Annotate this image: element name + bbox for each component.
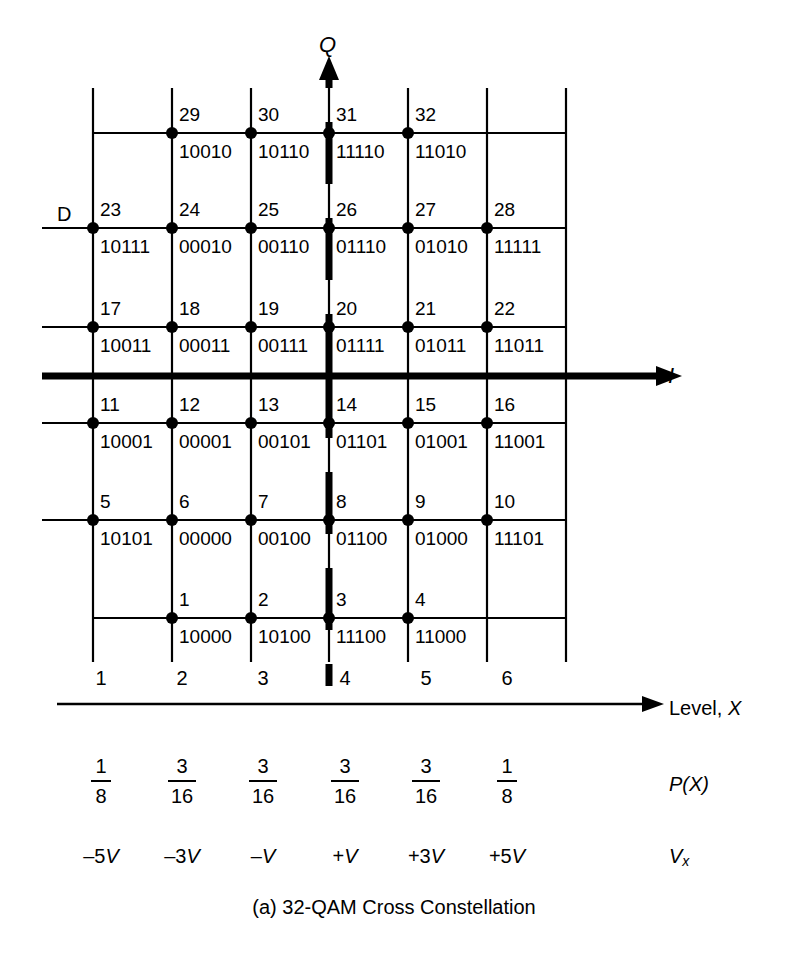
point-index-label: 4 [415,590,426,609]
point-index-label: 30 [258,105,279,124]
level-axis-label-variable: X [728,697,741,719]
fraction-bar [91,780,111,782]
i-axis-label: I [668,365,674,387]
voltage-sign: – [83,845,94,867]
voltage-sign: + [408,845,420,867]
voltage-value: –3V [148,845,216,868]
fraction-bar [497,780,517,782]
point-index-label: 12 [179,395,200,414]
fraction-numerator: 3 [402,755,450,779]
point-index-label: 22 [494,299,515,318]
point-code-label: 11100 [336,627,386,646]
fraction-numerator: 3 [321,755,369,779]
point-index-label: 13 [258,395,279,414]
point-code-label: 01010 [415,237,468,256]
voltage-sign: + [332,845,344,867]
point-code-label: 11110 [336,142,385,161]
point-code-label: 10101 [100,529,153,548]
point-code-label: 00100 [258,529,311,548]
fraction-denominator: 8 [483,784,531,808]
point-code-label: 11001 [494,432,545,451]
voltage-magnitude: 3 [420,845,431,867]
d-label: D [57,204,71,224]
figure-caption: (a) 32-QAM Cross Constellation [0,896,788,919]
probability-fraction: 18 [483,755,531,808]
voltage-label-subscript: x [682,853,689,869]
qam-constellation-figure: 2910010301011031111103211010231011124000… [0,0,788,964]
point-code-label: 01101 [336,432,387,451]
point-code-label: 01001 [415,432,468,451]
level-axis-label-text: Level, [669,697,728,719]
fraction-bar [249,780,277,782]
point-index-label: 19 [258,299,279,318]
point-code-label: 00000 [179,529,232,548]
voltage-unit: V [431,845,444,867]
point-index-label: 31 [336,105,357,124]
fraction-bar [331,780,359,782]
fraction-numerator: 1 [77,755,125,779]
point-code-label: 10010 [179,142,232,161]
point-index-label: 7 [258,492,269,511]
point-code-label: 10110 [258,142,309,161]
point-code-label: 00001 [179,432,232,451]
fraction-denominator: 8 [77,784,125,808]
figure-text-layer: 2910010301011031111103211010231011124000… [0,0,788,964]
fraction-denominator: 16 [158,784,206,808]
voltage-magnitude: 5 [94,845,105,867]
point-index-label: 23 [100,200,121,219]
point-index-label: 27 [415,200,436,219]
level-number: 1 [81,668,121,688]
point-code-label: 10100 [258,627,311,646]
voltage-value: +V [311,845,379,868]
point-code-label: 01000 [415,529,468,548]
fraction-bar [412,780,440,782]
point-code-label: 00111 [258,336,308,355]
point-index-label: 14 [336,395,357,414]
point-code-label: 01100 [336,529,387,548]
point-index-label: 28 [494,200,515,219]
fraction-bar [168,780,196,782]
voltage-label: Vx [669,845,689,869]
voltage-sign: – [164,845,175,867]
voltage-value: +3V [392,845,460,868]
fraction-denominator: 16 [402,784,450,808]
voltage-value: –V [229,845,297,868]
fraction-numerator: 1 [483,755,531,779]
voltage-magnitude: 3 [175,845,186,867]
point-index-label: 29 [179,105,200,124]
voltage-unit: V [186,845,199,867]
point-code-label: 00101 [258,432,311,451]
point-index-label: 3 [336,590,347,609]
point-code-label: 01110 [336,237,386,256]
point-code-label: 11000 [415,627,466,646]
point-index-label: 1 [179,590,190,609]
probability-fraction: 316 [158,755,206,808]
probability-fraction: 316 [321,755,369,808]
voltage-sign: – [251,845,262,867]
point-code-label: 01111 [336,336,385,355]
probability-fraction: 316 [402,755,450,808]
probability-label-close: ) [702,773,709,795]
level-number: 5 [406,668,446,688]
level-number: 3 [243,668,283,688]
point-code-label: 11011 [494,336,544,355]
voltage-value: –5V [67,845,135,868]
voltage-unit: V [344,845,357,867]
point-index-label: 5 [100,492,111,511]
point-index-label: 10 [494,492,515,511]
point-code-label: 10111 [100,237,150,256]
point-code-label: 00010 [179,237,232,256]
point-index-label: 17 [100,299,121,318]
voltage-unit: V [512,845,525,867]
voltage-unit: V [262,845,275,867]
point-code-label: 01011 [415,336,466,355]
point-code-label: 00011 [179,336,230,355]
probability-fraction: 316 [239,755,287,808]
point-index-label: 24 [179,200,200,219]
point-index-label: 8 [336,492,347,511]
probability-label: P(X) [669,773,709,796]
voltage-unit: V [105,845,118,867]
fraction-denominator: 16 [239,784,287,808]
point-code-label: 11010 [415,142,466,161]
point-code-label: 11111 [494,237,541,256]
